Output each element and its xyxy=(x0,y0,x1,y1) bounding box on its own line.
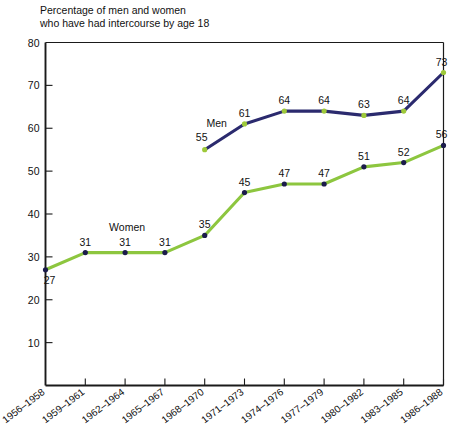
x-tick-label: 1971–1973 xyxy=(199,386,246,425)
data-series-group xyxy=(43,70,446,272)
y-tick-label: 20 xyxy=(28,294,40,306)
data-point-marker xyxy=(123,250,128,255)
x-tick-label: 1974–1976 xyxy=(239,386,286,425)
y-tick-label: 80 xyxy=(28,37,40,49)
data-point-marker xyxy=(322,109,327,114)
data-point-marker xyxy=(361,113,366,118)
data-point-label: 64 xyxy=(318,94,330,106)
data-point-marker xyxy=(401,109,406,114)
line-chart-plot: 1020304050607080 1956–19581959–19611962–… xyxy=(0,0,465,436)
series-annotations: MenWomen xyxy=(109,117,227,233)
chart-container: Percentage of men and women who have had… xyxy=(0,0,465,436)
data-point-marker xyxy=(361,164,366,169)
data-point-marker xyxy=(401,160,406,165)
y-tick-label: 30 xyxy=(28,251,40,263)
y-axis: 1020304050607080 xyxy=(28,37,53,349)
y-tick-label: 50 xyxy=(28,165,40,177)
y-tick-label: 10 xyxy=(28,337,40,349)
x-tick-label: 1959–1961 xyxy=(40,386,87,425)
data-point-marker xyxy=(202,233,207,238)
y-tick-label: 60 xyxy=(28,122,40,134)
x-tick-label: 1962–1964 xyxy=(80,386,127,425)
data-point-marker xyxy=(83,250,88,255)
data-point-marker xyxy=(282,181,287,186)
x-tick-label: 1956–1958 xyxy=(0,386,47,425)
data-point-label: 31 xyxy=(159,236,171,248)
x-tick-label: 1986–1988 xyxy=(398,386,445,425)
data-point-label: 64 xyxy=(398,94,410,106)
data-point-marker xyxy=(322,181,327,186)
x-tick-label: 1968–1970 xyxy=(159,386,206,425)
data-point-label: 47 xyxy=(318,167,330,179)
data-point-marker xyxy=(43,267,48,272)
data-point-label: 27 xyxy=(44,274,56,286)
data-point-label: 63 xyxy=(358,98,370,110)
data-point-label: 61 xyxy=(239,107,251,119)
data-point-label: 64 xyxy=(278,94,290,106)
series-annotation-women: Women xyxy=(109,221,145,233)
data-point-marker xyxy=(162,250,167,255)
plot-frame xyxy=(46,43,444,386)
y-tick-label: 40 xyxy=(28,208,40,220)
data-point-label: 73 xyxy=(436,56,448,68)
data-point-label: 47 xyxy=(278,167,290,179)
y-tick-label: 70 xyxy=(28,79,40,91)
x-tick-label: 1965–1967 xyxy=(120,386,167,425)
data-point-marker xyxy=(441,143,446,148)
data-point-label: 31 xyxy=(79,236,91,248)
data-point-label: 52 xyxy=(398,146,410,158)
series-annotation-men: Men xyxy=(206,117,227,129)
x-tick-label: 1980–1982 xyxy=(319,386,366,425)
x-tick-label: 1977–1979 xyxy=(279,386,326,425)
data-point-label: 31 xyxy=(119,236,131,248)
data-point-marker xyxy=(282,109,287,114)
data-point-label: 51 xyxy=(358,150,370,162)
data-point-label: 35 xyxy=(199,218,211,230)
data-point-label: 55 xyxy=(196,131,208,143)
series-line-women xyxy=(46,145,444,269)
data-point-marker xyxy=(242,121,247,126)
data-point-marker xyxy=(202,147,207,152)
data-point-label: 56 xyxy=(436,128,448,140)
data-point-marker xyxy=(441,70,446,75)
x-tick-label: 1983–1985 xyxy=(358,386,405,425)
data-point-label: 45 xyxy=(239,176,251,188)
data-point-marker xyxy=(242,190,247,195)
